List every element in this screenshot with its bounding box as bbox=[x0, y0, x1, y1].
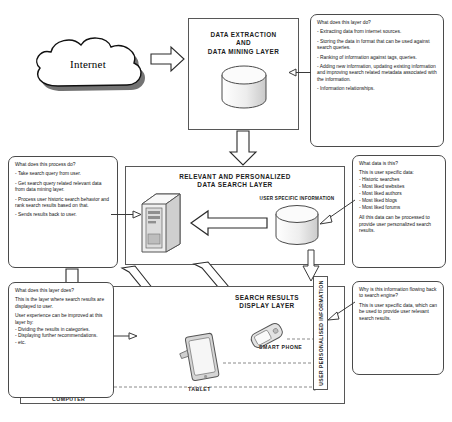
arrow-internet-to-extraction bbox=[150, 46, 186, 72]
callout-extraction-item-3: - Adding new information, updating exist… bbox=[317, 64, 438, 83]
callout-search-process-question: What does this process do? bbox=[15, 162, 112, 168]
feedback-arrow-computer bbox=[98, 382, 324, 392]
callout-extraction-item-1: - Storing the data in format that can be… bbox=[317, 39, 438, 52]
callout-user-data-intro: This is user specific data: bbox=[359, 170, 440, 176]
callout-display-layer-item-2: - etc. bbox=[15, 340, 108, 346]
callout-extraction-item-0: - Extracting data from internet sources. bbox=[317, 29, 438, 35]
callout-display-layer-item-0: - Dividing the results in categories. bbox=[15, 327, 108, 333]
database-cylinder-icon bbox=[216, 63, 272, 113]
layer-search-title: RELEVANT AND PERSONALIZED DATA SEARCH LA… bbox=[150, 173, 320, 190]
callout-user-data: What data is this? This is user specific… bbox=[352, 155, 446, 268]
tablet-icon bbox=[178, 332, 226, 386]
layer-data-extraction-title: DATA EXTRACTION AND DATA MINING LAYER bbox=[188, 31, 299, 56]
callout-display-layer-question: What does this layer does? bbox=[15, 288, 108, 294]
callout-search-process-item-0: - Take search query from user. bbox=[15, 171, 112, 177]
connector-callout-feedback bbox=[326, 300, 356, 322]
user-personalised-information-label: USER PERSONALISED INFORMATION bbox=[318, 280, 324, 386]
arrow-userdata-to-server bbox=[190, 210, 268, 236]
layer-display-title: SEARCH RESULTS DISPLAY LAYER bbox=[212, 294, 322, 311]
callout-feedback: Why is this information flowing back to … bbox=[352, 281, 444, 375]
callout-display-layer-subhead: User experience can be improved at this … bbox=[15, 313, 108, 326]
callout-search-process-item-1: - Get search query related relevant data… bbox=[15, 181, 112, 194]
connector-callout-user-data bbox=[312, 198, 356, 228]
callout-user-data-note: All this data can be processed to provid… bbox=[359, 215, 440, 234]
callout-search-process-item-2: - Process user historic search behavior … bbox=[15, 197, 112, 210]
arrow-extraction-to-search bbox=[228, 130, 258, 166]
callout-user-data-item-0: - Historic searches bbox=[359, 177, 440, 183]
diagram-canvas: Internet DATA EXTRACTION AND DATA MINING… bbox=[0, 0, 452, 422]
callout-user-data-item-3: - Most liked blogs bbox=[359, 198, 440, 204]
callout-display-layer-intro: This is the layer where search results a… bbox=[15, 297, 108, 310]
callout-search-process-item-3: - Sends results back to user. bbox=[15, 212, 112, 218]
callout-display-layer: What does this layer does? This is the l… bbox=[8, 282, 114, 398]
callout-user-data-item-1: - Most liked websites bbox=[359, 184, 440, 190]
user-personalised-information-band: USER PERSONALISED INFORMATION bbox=[313, 276, 328, 390]
connector-callout-display-layer bbox=[112, 330, 138, 342]
callout-feedback-note: This is user specific data, which can be… bbox=[359, 303, 438, 322]
callout-display-layer-item-1: - Displaying further recommendations. bbox=[15, 333, 108, 339]
connector-callout-search-process bbox=[110, 208, 142, 222]
callout-search-process: What does this process do? - Take search… bbox=[8, 156, 118, 268]
callout-extraction-item-4: - Information relationships. bbox=[317, 86, 438, 92]
callout-user-data-item-4: - Most liked forums bbox=[359, 205, 440, 211]
callout-extraction: What does this layer do? - Extracting da… bbox=[310, 14, 444, 147]
callout-user-data-question: What data is this? bbox=[359, 161, 440, 167]
connector-callout-extraction bbox=[288, 66, 312, 80]
callout-extraction-item-2: - Ranking of information against tags, q… bbox=[317, 55, 438, 61]
arrow-band-to-user-store bbox=[298, 248, 324, 282]
callout-user-data-item-2: - Most liked authors bbox=[359, 191, 440, 197]
internet-cloud: Internet bbox=[24, 28, 152, 100]
server-tower-icon bbox=[136, 190, 186, 256]
callout-extraction-question: What does this layer do? bbox=[317, 20, 438, 26]
feedback-arrow-tablet bbox=[222, 358, 324, 368]
internet-label: Internet bbox=[24, 58, 152, 70]
callout-feedback-question: Why is this information flowing back to … bbox=[359, 287, 438, 300]
device-label-smart-phone: SMART PHONE bbox=[259, 344, 302, 350]
